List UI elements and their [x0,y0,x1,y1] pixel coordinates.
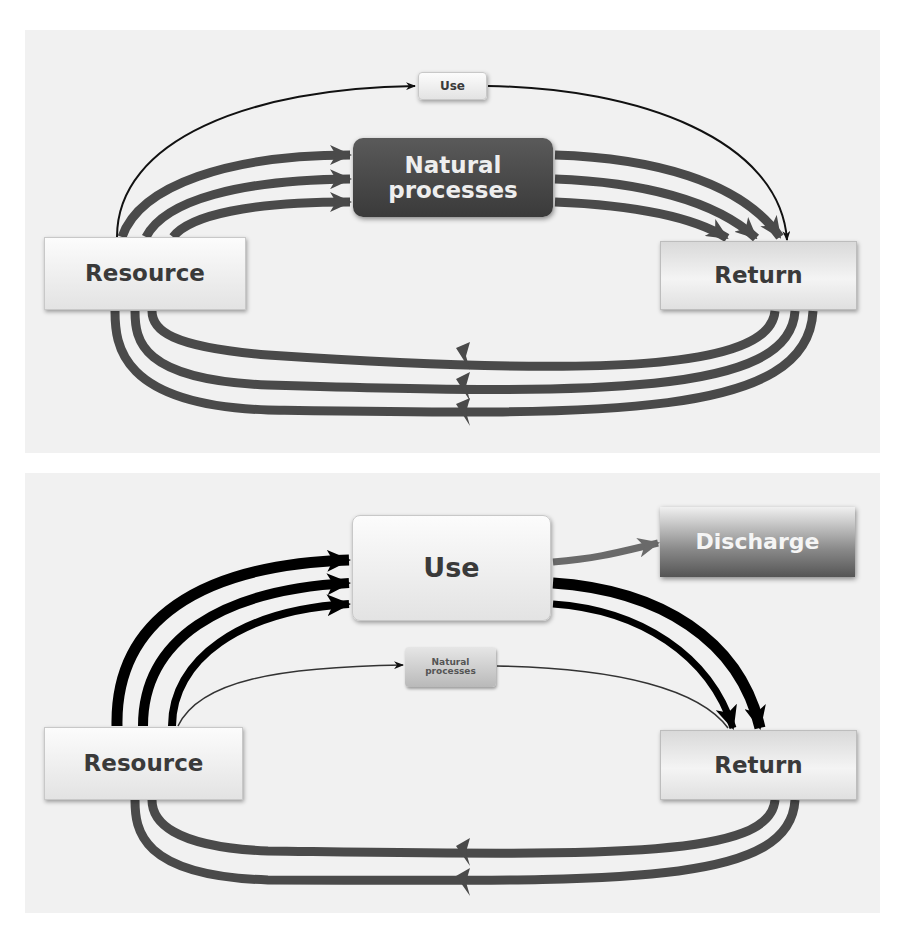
bottom-use-label: Use [423,554,479,582]
top-natural-processes-label: Natural processes [373,153,533,201]
bottom-natural-processes-label: Natural processes [417,658,484,677]
top-return-node: Return [660,241,857,310]
top-resource-label: Resource [85,261,205,285]
bottom-resource-node: Resource [44,727,243,800]
top-natural-processes-node: Natural processes [353,138,553,217]
bottom-natural-processes-node: Natural processes [405,647,496,687]
top-use-label: Use [440,80,465,93]
bottom-return-node: Return [660,730,857,800]
bottom-discharge-label: Discharge [696,530,820,553]
top-resource-node: Resource [44,237,246,310]
bottom-discharge-node: Discharge [660,507,855,577]
bottom-use-node: Use [352,515,551,621]
top-return-label: Return [714,263,802,287]
bottom-resource-label: Resource [84,751,204,775]
top-use-node: Use [418,72,487,100]
bottom-return-label: Return [714,753,802,777]
